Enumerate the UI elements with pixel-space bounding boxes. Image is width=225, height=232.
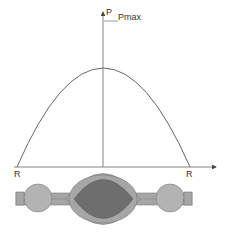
left-r-label: R [14, 169, 21, 179]
pressure-distribution-diagram: P Pmax R R [0, 0, 225, 232]
right-end-cap [184, 192, 192, 205]
lens-body-illustration [16, 174, 192, 225]
right-bulb [156, 184, 184, 212]
pmax-label: Pmax [118, 12, 142, 22]
y-axis-label: P [106, 7, 112, 17]
right-r-label: R [186, 169, 193, 179]
left-bulb [24, 184, 52, 212]
pressure-curve [17, 68, 190, 167]
left-end-cap [16, 192, 24, 205]
